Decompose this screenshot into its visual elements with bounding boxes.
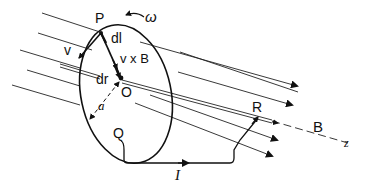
label-dl: dl bbox=[111, 30, 122, 46]
label-v: v bbox=[64, 42, 71, 58]
point-p-dot bbox=[99, 31, 103, 35]
label-p: P bbox=[95, 10, 104, 26]
field-line bbox=[20, 50, 80, 68]
label-dr: dr bbox=[96, 71, 109, 87]
faraday-disk-diagram: P ω dl v v x B dr O a Q R B z I bbox=[0, 0, 367, 188]
field-line bbox=[42, 13, 100, 32]
field-line-arrow bbox=[178, 72, 292, 105]
circuit-wire bbox=[121, 118, 258, 163]
label-omega: ω bbox=[145, 8, 157, 25]
omega-rotation-arrow bbox=[126, 13, 144, 17]
center-o-dot bbox=[119, 76, 124, 81]
field-line bbox=[27, 70, 80, 86]
shaft-line bbox=[122, 80, 272, 120]
diagram-canvas: P ω dl v v x B dr O a Q R B z I bbox=[0, 0, 367, 188]
label-q: Q bbox=[113, 125, 124, 141]
field-line bbox=[180, 52, 298, 92]
label-r: R bbox=[252, 99, 262, 115]
radius-a-arrow bbox=[90, 82, 119, 119]
field-lines bbox=[12, 13, 298, 156]
shaft-line bbox=[122, 83, 272, 123]
label-b: B bbox=[313, 118, 323, 135]
velocity-arrow bbox=[79, 33, 101, 58]
external-circuit bbox=[121, 118, 258, 163]
label-z: z bbox=[343, 136, 349, 150]
label-current: I bbox=[174, 167, 181, 183]
label-o: O bbox=[121, 84, 132, 100]
label-v-cross-b: v x B bbox=[120, 51, 149, 66]
z-axis-dashed bbox=[272, 121, 348, 143]
label-a: a bbox=[98, 98, 105, 113]
field-line bbox=[12, 85, 80, 105]
